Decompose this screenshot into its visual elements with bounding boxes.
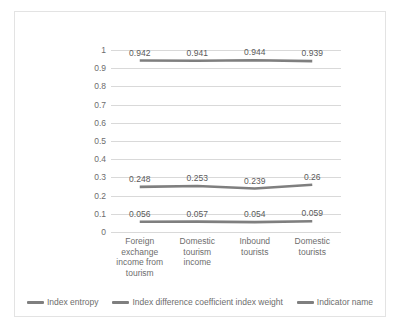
y-axis-tick-label: 1 <box>101 46 106 55</box>
data-label: 0.057 <box>187 209 208 218</box>
data-label: 0.944 <box>244 48 265 57</box>
series-line <box>140 60 313 61</box>
legend-item[interactable]: Indicator name <box>297 298 373 307</box>
y-axis-tick-label: 0.5 <box>94 137 106 146</box>
data-label: 0.248 <box>129 174 150 183</box>
y-axis-tick-label: 0.4 <box>94 155 106 164</box>
chart-legend: Index entropyIndex difference coefficien… <box>15 298 385 307</box>
x-axis-category-label: Domestic tourists <box>284 236 342 279</box>
data-label: 0.26 <box>304 172 321 181</box>
data-label: 0.059 <box>302 209 323 218</box>
series-lines <box>111 50 341 232</box>
chart-container: 10.90.80.70.60.50.40.30.20.10 0.9420.941… <box>14 11 386 317</box>
plot-area: 10.90.80.70.60.50.40.30.20.10 0.9420.941… <box>111 50 341 232</box>
y-axis-tick-label: 0.3 <box>94 173 106 182</box>
y-axis-tick-label: 0.9 <box>94 64 106 73</box>
y-axis-tick-label: 0.2 <box>94 191 106 200</box>
legend-line-icon <box>297 301 314 304</box>
data-label: 0.939 <box>302 49 323 58</box>
data-label: 0.253 <box>187 173 208 182</box>
legend-label: Index entropy <box>47 298 99 307</box>
legend-label: Indicator name <box>317 298 373 307</box>
data-label: 0.056 <box>129 209 150 218</box>
y-axis-tick-label: 0.7 <box>94 100 106 109</box>
series-svg <box>111 50 341 232</box>
legend-line-icon <box>112 301 129 304</box>
x-axis-category-label: Foreign exchange income from tourism <box>111 236 169 279</box>
gridline <box>111 232 341 233</box>
legend-line-icon <box>27 301 44 304</box>
series-line <box>140 221 313 222</box>
data-label: 0.941 <box>187 48 208 57</box>
y-axis-tick-label: 0.8 <box>94 82 106 91</box>
x-axis-category-labels: Foreign exchange income from tourismDome… <box>111 236 341 279</box>
data-label: 0.942 <box>129 48 150 57</box>
data-label: 0.239 <box>244 176 265 185</box>
x-axis-category-label: Inbound tourists <box>226 236 284 279</box>
legend-label: Index difference coefficient index weigh… <box>132 298 282 307</box>
series-line <box>140 185 313 189</box>
y-axis-tick-label: 0 <box>101 228 106 237</box>
data-label: 0.054 <box>244 210 265 219</box>
x-axis-category-label: Domestic tourism income <box>169 236 227 279</box>
legend-item[interactable]: Index difference coefficient index weigh… <box>112 298 282 307</box>
y-axis-tick-label: 0.6 <box>94 119 106 128</box>
y-axis-tick-label: 0.1 <box>94 210 106 219</box>
legend-item[interactable]: Index entropy <box>27 298 99 307</box>
